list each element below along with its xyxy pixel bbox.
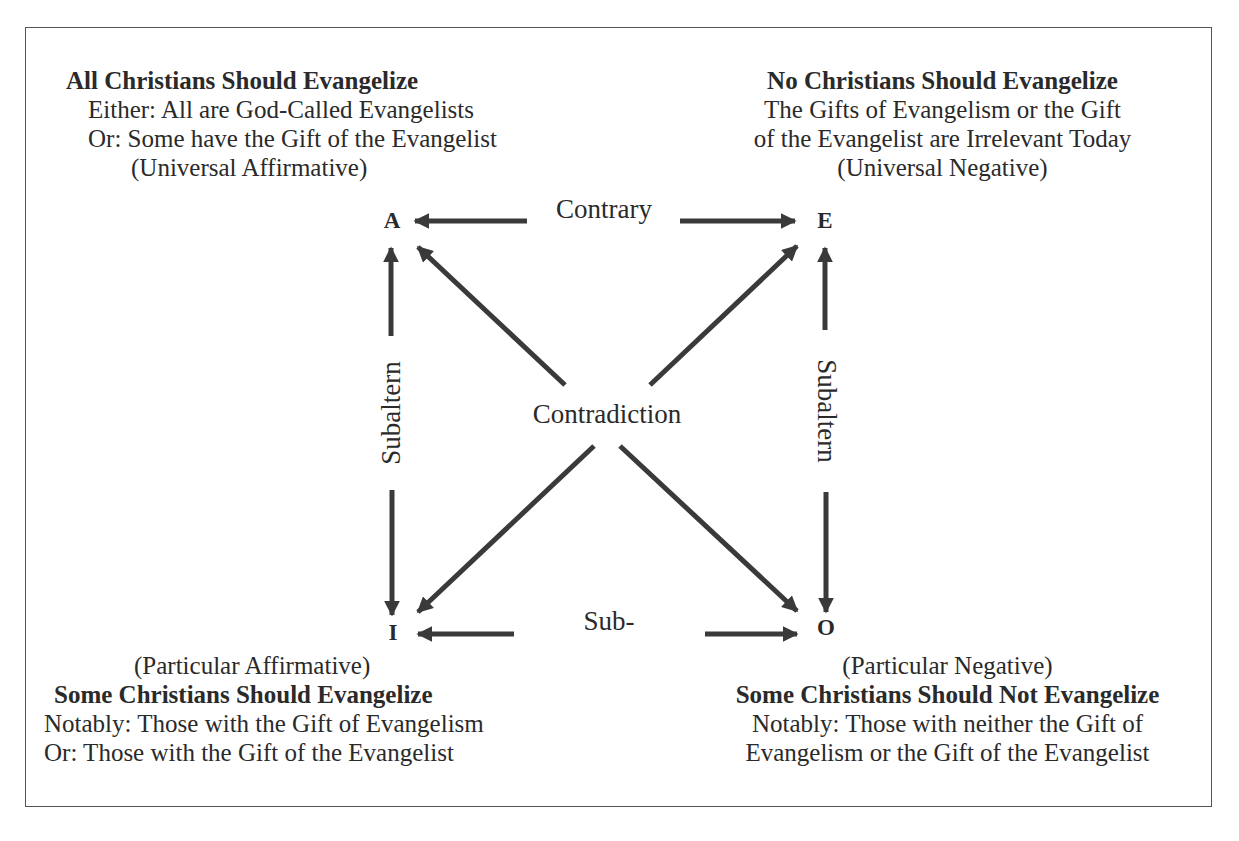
corner-letter-o: O [817,615,835,641]
corner-letter-e: E [817,208,832,234]
corner-e-line-2: of the Evangelist are Irrelevant Today [700,124,1185,153]
relation-label-subaltern-left: Subaltern [376,361,407,464]
corner-e-title: No Christians Should Evangelize [700,66,1185,95]
corner-i-line-1: Notably: Those with the Gift of Evangeli… [44,709,484,738]
contradiction-arrow-to-O [620,446,797,611]
corner-a-title: All Christians Should Evangelize [66,66,497,95]
relation-label-contrary: Contrary [556,194,652,225]
corner-o-line-2: Evangelism or the Gift of the Evangelist [690,738,1205,767]
corner-letter-a: A [384,208,401,234]
relation-label-subaltern-right: Subaltern [811,359,842,462]
contradiction-arrow-to-I [418,446,594,612]
relation-label-contradiction: Contradiction [533,399,681,430]
corner-e-description: No Christians Should Evangelize The Gift… [700,66,1185,182]
relation-label-subcontrary: Sub- [583,606,634,637]
corner-o-description: (Particular Negative) Some Christians Sh… [690,651,1205,767]
corner-e-category: (Universal Negative) [700,153,1185,182]
corner-letter-i: I [389,620,398,646]
corner-i-category: (Particular Affirmative) [44,651,484,680]
corner-a-category: (Universal Affirmative) [66,153,497,182]
corner-o-line-1: Notably: Those with neither the Gift of [690,709,1205,738]
corner-a-line-1: Either: All are God-Called Evangelists [66,95,497,124]
corner-i-line-2: Or: Those with the Gift of the Evangelis… [44,738,484,767]
corner-i-title: Some Christians Should Evangelize [44,680,484,709]
corner-o-category: (Particular Negative) [690,651,1205,680]
contradiction-arrow-to-E [650,246,797,385]
corner-e-line-1: The Gifts of Evangelism or the Gift [700,95,1185,124]
contradiction-arrow-to-A [418,247,565,385]
corner-i-description: (Particular Affirmative) Some Christians… [44,651,484,767]
corner-a-description: All Christians Should Evangelize Either:… [66,66,497,182]
corner-a-line-2: Or: Some have the Gift of the Evangelist [66,124,497,153]
corner-o-title: Some Christians Should Not Evangelize [690,680,1205,709]
